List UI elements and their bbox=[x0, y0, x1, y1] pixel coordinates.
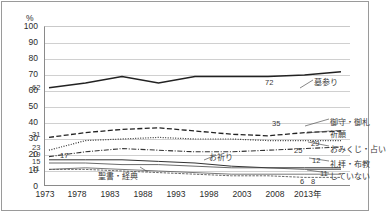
y-tick-100: 100 bbox=[8, 22, 38, 31]
series-label-omikuji: おみくじ・占い bbox=[330, 145, 386, 154]
series-label-seisho: 聖書・経典 bbox=[98, 172, 138, 181]
y-tick-50: 50 bbox=[8, 102, 38, 111]
y-tick-40: 40 bbox=[8, 118, 38, 127]
series-label-omamori: 御守・御札 bbox=[330, 118, 370, 127]
y-tick-70: 70 bbox=[8, 70, 38, 79]
x-tick-2013: 2013年 bbox=[288, 190, 328, 199]
series-label-shiteinai: していない bbox=[330, 172, 370, 181]
y-tick-80: 80 bbox=[8, 54, 38, 63]
series-label-hakamairi: 墓参り bbox=[314, 78, 338, 87]
value-end-oinori: 12 bbox=[312, 157, 320, 165]
plot-area bbox=[44, 26, 350, 186]
value-start-hakamairi: 62 bbox=[32, 84, 40, 92]
series-label-reihai: 礼拝・布教 bbox=[330, 160, 370, 169]
value-end-reihai: 11 bbox=[320, 170, 328, 178]
series-label-oinori: お祈り bbox=[209, 153, 233, 162]
value-end-omikuji: 25 bbox=[294, 147, 302, 155]
value-start-seisho: 11 bbox=[32, 165, 40, 173]
value-end-omamori: 35 bbox=[272, 120, 280, 128]
value-end-shiteinai: 8 bbox=[311, 178, 315, 186]
series-lines bbox=[45, 27, 351, 187]
line-墓参り bbox=[49, 72, 341, 88]
value-end-hakamairi: 72 bbox=[265, 79, 273, 87]
value-end-kigan: 29 bbox=[311, 140, 319, 148]
y-tick-90: 90 bbox=[8, 38, 38, 47]
series-label-kigan: 祈願 bbox=[330, 130, 346, 139]
value-end-seisho: 6 bbox=[300, 178, 304, 186]
value-start-oinori: 17 bbox=[60, 152, 68, 160]
value-start-omamori: 31 bbox=[32, 131, 40, 139]
line-御守・御札 bbox=[49, 128, 341, 138]
line-聖書・経典 bbox=[49, 169, 341, 177]
